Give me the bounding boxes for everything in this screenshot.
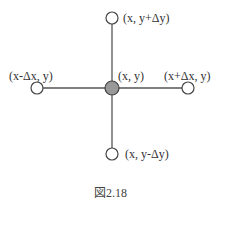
node-right xyxy=(182,82,194,94)
node-left xyxy=(31,82,43,94)
node-center xyxy=(105,81,119,95)
node-bottom xyxy=(106,148,118,160)
figure-caption: 図2.18 xyxy=(94,183,127,201)
label-right: (x+Δx, y) xyxy=(164,69,210,83)
label-center: (x, y) xyxy=(118,69,144,83)
label-bottom: (x, y-Δy) xyxy=(125,147,169,161)
label-left: (x-Δx, y) xyxy=(9,69,53,83)
label-top: (x, y+Δy) xyxy=(123,11,169,25)
node-top xyxy=(106,12,118,24)
